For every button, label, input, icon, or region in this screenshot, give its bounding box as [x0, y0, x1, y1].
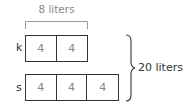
tape-cell: 4 — [57, 75, 88, 100]
total-label: 20 liters — [138, 61, 183, 74]
right-curly-brace — [126, 35, 135, 101]
tape-row-k: 4 4 — [25, 35, 88, 62]
tape-cell: 4 — [26, 75, 57, 100]
row-label-k: k — [16, 41, 22, 54]
tape-row-s: 4 4 4 — [25, 74, 119, 101]
tape-cell: 4 — [87, 75, 118, 100]
tape-cell: 4 — [57, 36, 87, 61]
top-bracket — [26, 22, 88, 30]
tape-cell: 4 — [26, 36, 57, 61]
row-label-s: s — [16, 81, 22, 94]
